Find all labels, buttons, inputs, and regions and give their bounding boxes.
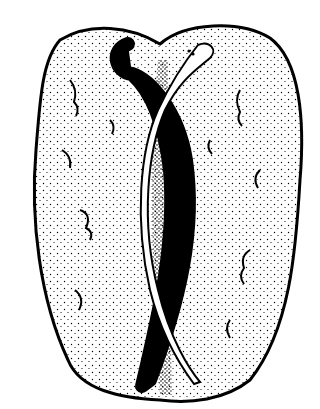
black-snake-eye: [133, 56, 137, 60]
white-snake-eye: [187, 49, 190, 52]
illustration: [0, 0, 320, 409]
